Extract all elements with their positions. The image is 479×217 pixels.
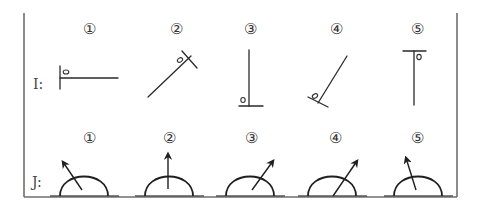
diagram-figure: ① ② ③ ④ ⑤ ① ② ③ ④ ⑤ I: J: (0, 0, 479, 217)
figure-i-5 (403, 51, 426, 105)
item-number-j-4: ④ (325, 130, 345, 146)
figure-j-5 (384, 158, 453, 196)
item-number-i-4: ④ (326, 21, 346, 37)
figure-j-3 (216, 161, 285, 196)
figure-i-4 (308, 56, 347, 107)
item-number-i-5: ⑤ (407, 21, 427, 37)
item-number-i-3: ③ (240, 21, 260, 37)
item-number-j-2: ② (159, 130, 179, 146)
row-label-j: J: (32, 174, 42, 190)
figure-j-4 (298, 161, 367, 196)
row-label-i: I: (33, 76, 43, 92)
item-number-i-2: ② (166, 21, 186, 37)
item-number-i-1: ① (79, 21, 99, 37)
figure-i-1 (60, 66, 118, 89)
item-number-j-5: ⑤ (407, 130, 427, 146)
figure-i-3 (239, 50, 263, 106)
figure-i-2 (148, 51, 197, 97)
frame-border (24, 13, 457, 197)
figure-j-2 (135, 154, 204, 196)
item-number-j-3: ③ (241, 130, 261, 146)
figure-j-1 (50, 162, 119, 196)
item-number-j-1: ① (79, 130, 99, 146)
